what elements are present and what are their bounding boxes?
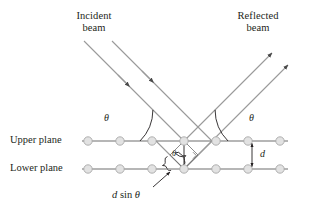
incident-beam-label-line2: beam — [82, 22, 105, 33]
bragg-diffraction-figure: Incident beam Reflected beam Upper plane… — [0, 0, 309, 213]
atom-lower-3 — [180, 165, 188, 173]
interplanar-spacing-label: d — [260, 148, 265, 160]
atom-lower-1 — [116, 165, 124, 173]
incident-beam-label-line1: Incident — [76, 10, 111, 21]
atom-upper-4 — [212, 137, 220, 145]
lower-plane-label: Lower plane — [10, 162, 63, 174]
reflected-beam-label: Reflected beam — [212, 10, 304, 35]
atom-upper-5 — [244, 137, 252, 145]
reflected-beam-label-line2: beam — [246, 22, 269, 33]
dsin-leader — [153, 172, 170, 187]
theta-incident-arc — [140, 110, 153, 141]
atom-upper-1 — [116, 137, 124, 145]
theta-interior-label: θ — [172, 148, 176, 158]
incident-ray-1 — [84, 41, 184, 141]
angle-arcs — [140, 110, 228, 141]
theta-reflected-label: θ — [249, 112, 254, 124]
incident-ray-2-arrowhead — [142, 71, 152, 81]
atom-upper-6 — [276, 137, 284, 145]
reflected-beam-label-line1: Reflected — [237, 10, 278, 21]
incident-ray-1-arrowhead — [118, 75, 128, 85]
atom-upper-2 — [148, 137, 156, 145]
atom-lower-0 — [84, 165, 92, 173]
reflected-rays — [184, 53, 288, 169]
atom-lower-6 — [276, 165, 284, 173]
dsin-leader-arrow — [153, 172, 170, 187]
theta-interior-arc — [176, 154, 185, 158]
atom-upper-0 — [84, 137, 92, 145]
atom-upper-3 — [180, 137, 188, 145]
path-difference-angle: θ — [135, 189, 140, 200]
atom-lower-2 — [148, 165, 156, 173]
incident-beam-label: Incident beam — [48, 10, 140, 35]
path-difference-fn: sin — [120, 189, 132, 200]
atom-lower-4 — [212, 165, 220, 173]
theta-incident-label: θ — [104, 112, 109, 124]
reflected-ray-1 — [184, 53, 272, 141]
path-difference-label: d sin θ — [112, 189, 140, 201]
upper-plane-label: Upper plane — [10, 134, 62, 146]
atom-lower-5 — [244, 165, 252, 173]
